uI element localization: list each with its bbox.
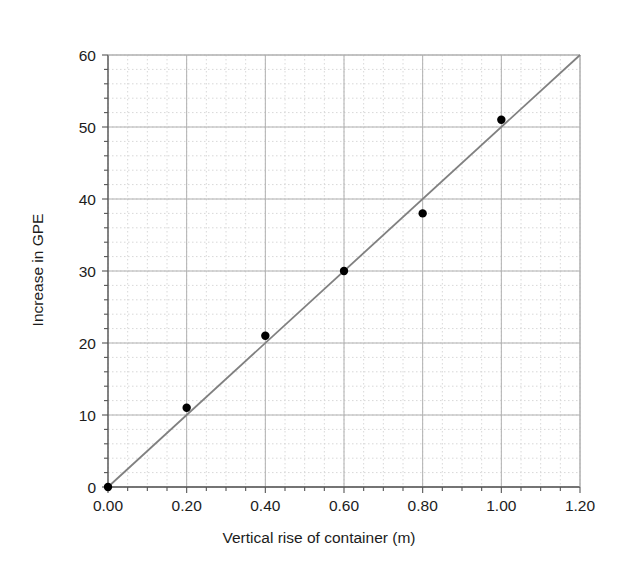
y-axis-tick-label: 60 bbox=[79, 47, 97, 64]
x-axis-tick-label: 0.60 bbox=[329, 497, 360, 514]
data-point bbox=[261, 332, 269, 340]
y-axis-title: Increase in GPE bbox=[29, 214, 46, 327]
x-axis-tick-label: 0.00 bbox=[93, 497, 124, 514]
y-axis-tick-label: 40 bbox=[79, 191, 97, 208]
y-axis-tick-label: 10 bbox=[79, 407, 97, 424]
y-axis-tick-label: 30 bbox=[79, 263, 97, 280]
x-axis-tick-label: 0.80 bbox=[408, 497, 439, 514]
data-point bbox=[418, 209, 426, 217]
x-axis-title: Vertical rise of container (m) bbox=[223, 529, 416, 546]
data-point bbox=[340, 267, 348, 275]
data-point bbox=[104, 483, 112, 491]
chart-container: 0.000.200.400.600.801.001.20 01020304050… bbox=[0, 0, 628, 578]
gpe-vs-rise-scatter-chart: 0.000.200.400.600.801.001.20 01020304050… bbox=[0, 0, 628, 578]
data-point bbox=[182, 404, 190, 412]
y-axis-tick-label: 50 bbox=[79, 119, 97, 136]
y-axis-tick-label: 20 bbox=[79, 335, 97, 352]
x-axis-tick-label: 1.00 bbox=[486, 497, 517, 514]
y-axis-tick-label: 0 bbox=[87, 479, 96, 496]
data-point bbox=[497, 116, 505, 124]
x-axis-tick-label: 0.40 bbox=[250, 497, 281, 514]
x-axis-tick-label: 1.20 bbox=[565, 497, 596, 514]
x-axis-tick-label: 0.20 bbox=[172, 497, 203, 514]
